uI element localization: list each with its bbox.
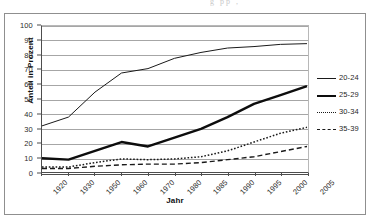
x-tick-mark-1970 <box>148 173 149 176</box>
legend-item-20-24[interactable]: 20-24 <box>317 69 367 86</box>
y-tick-label-60: 60 <box>24 80 33 89</box>
legend-swatch-20-24 <box>317 73 336 83</box>
y-tick-label-20: 20 <box>24 139 33 148</box>
legend-label-30-34: 30-34 <box>339 107 359 116</box>
plot-area <box>41 25 309 173</box>
series-line-30-34 <box>42 127 307 167</box>
legend-item-30-34[interactable]: 30-34 <box>317 103 367 120</box>
x-axis-title: Jahr <box>41 196 309 205</box>
chart-legend: 20-2425-2930-3435-39 <box>317 69 367 137</box>
x-tick-mark-1985 <box>201 173 202 176</box>
x-tick-mark-1990 <box>228 173 229 176</box>
x-tick-label-1970: 1970 <box>158 178 176 196</box>
series-layer <box>42 26 308 173</box>
y-tick-label-50: 50 <box>24 95 33 104</box>
x-tick-mark-1950 <box>94 173 95 176</box>
legend-label-20-24: 20-24 <box>339 73 359 82</box>
legend-swatch-35-39 <box>317 124 336 134</box>
y-tick-label-10: 10 <box>24 154 33 163</box>
series-line-20-24 <box>42 44 307 126</box>
x-tick-mark-1930 <box>68 173 69 176</box>
x-tick-mark-2000 <box>281 173 282 176</box>
legend-label-25-29: 25-29 <box>339 90 359 99</box>
y-tick-label-0: 0 <box>29 169 33 178</box>
x-tick-mark-1960 <box>121 173 122 176</box>
legend-swatch-30-34 <box>317 107 336 117</box>
x-tick-mark-2005 <box>308 173 309 176</box>
y-tick-label-40: 40 <box>24 109 33 118</box>
legend-swatch-25-29 <box>317 90 336 100</box>
legend-item-35-39[interactable]: 35-39 <box>317 120 367 137</box>
x-tick-mark-1980 <box>175 173 176 176</box>
x-tick-label-1980: 1980 <box>185 178 203 196</box>
x-tick-mark-1920 <box>41 173 42 176</box>
x-tick-label-1990: 1990 <box>238 178 256 196</box>
y-tick-label-80: 80 <box>24 50 33 59</box>
series-line-35-39 <box>42 146 307 168</box>
legend-label-35-39: 35-39 <box>339 124 359 133</box>
x-tick-label-1960: 1960 <box>131 178 149 196</box>
x-tick-label-1950: 1950 <box>104 178 122 196</box>
x-tick-mark-1995 <box>255 173 256 176</box>
page-remnant-text: g pp , <box>210 0 360 6</box>
chart-figure-frame: Anteil in Prozent 0102030405060708090100… <box>4 13 366 215</box>
y-tick-label-90: 90 <box>24 35 33 44</box>
x-tick-label-2000: 2000 <box>291 178 309 196</box>
y-tick-label-70: 70 <box>24 65 33 74</box>
legend-item-25-29[interactable]: 25-29 <box>317 86 367 103</box>
x-tick-label-1995: 1995 <box>265 178 283 196</box>
x-tick-label-1930: 1930 <box>78 178 96 196</box>
y-tick-label-30: 30 <box>24 124 33 133</box>
x-tick-label-1985: 1985 <box>211 178 229 196</box>
x-tick-label-2005: 2005 <box>318 178 336 196</box>
x-tick-label-1920: 1920 <box>51 178 69 196</box>
y-axis: 0102030405060708090100 <box>5 25 41 173</box>
y-tick-label-100: 100 <box>20 21 33 30</box>
series-line-25-29 <box>42 86 307 159</box>
